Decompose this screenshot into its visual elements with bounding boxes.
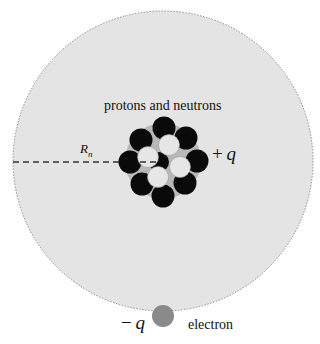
- nucleus-charge-label: + q: [212, 143, 236, 165]
- atom-figure: [0, 0, 320, 344]
- nucleus-charge-sign: +: [212, 143, 223, 164]
- atom-diagram: protons and neutrons Rn + q − q electron: [0, 0, 320, 344]
- radius-subscript: n: [88, 149, 93, 159]
- neutron: [148, 167, 169, 188]
- neutron: [138, 147, 159, 168]
- electron-charge-label: − q: [121, 312, 145, 334]
- neutron: [170, 157, 191, 178]
- electron-charge-sign: −: [121, 312, 132, 333]
- electron-label: electron: [188, 317, 233, 333]
- proton: [152, 185, 175, 208]
- nucleus-label: protons and neutrons: [104, 98, 221, 114]
- neutron: [159, 135, 180, 156]
- radius-label: Rn: [80, 141, 92, 159]
- electron-charge-symbol: q: [136, 312, 146, 333]
- nucleus-charge-symbol: q: [227, 143, 237, 164]
- radius-symbol: R: [80, 141, 88, 156]
- electron: [152, 305, 174, 327]
